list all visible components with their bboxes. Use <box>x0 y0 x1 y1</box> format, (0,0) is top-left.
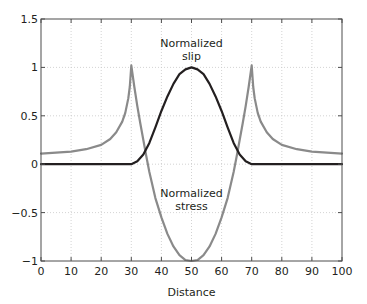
x-tick-label: 60 <box>215 265 229 278</box>
x-tick-label: 40 <box>154 265 168 278</box>
y-tick-label: −1 <box>22 255 38 268</box>
x-tick-label: 100 <box>332 265 353 278</box>
y-tick-label: 1 <box>31 61 38 74</box>
x-tick-labels: 0102030405060708090100 <box>38 265 353 278</box>
y-tick-label: 1.5 <box>21 13 39 26</box>
x-tick-label: 50 <box>185 265 199 278</box>
y-tick-label: 0 <box>31 158 38 171</box>
x-tick-label: 10 <box>64 265 78 278</box>
stress-annotation-line2: stress <box>175 200 208 213</box>
x-tick-label: 70 <box>245 265 259 278</box>
x-tick-label: 20 <box>94 265 108 278</box>
x-tick-label: 30 <box>124 265 138 278</box>
y-tick-labels: −1−0.500.511.5 <box>11 13 38 268</box>
slip-annotation-line2: slip <box>182 50 201 63</box>
x-tick-label: 90 <box>305 265 319 278</box>
x-tick-label: 0 <box>38 265 45 278</box>
stress-annotation-line1: Normalized <box>160 187 222 200</box>
slip-annotation-line1: Normalized <box>160 37 222 50</box>
line-chart: 0102030405060708090100 −1−0.500.511.5 Di… <box>0 0 367 304</box>
y-tick-label: −0.5 <box>11 207 38 220</box>
x-tick-label: 80 <box>275 265 289 278</box>
y-tick-label: 0.5 <box>21 110 39 123</box>
x-axis-label: Distance <box>167 286 215 299</box>
